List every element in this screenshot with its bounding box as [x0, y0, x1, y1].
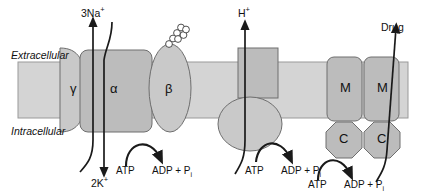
membrane-transport-diagram	[0, 0, 430, 194]
potassium-label: 2K+	[91, 176, 108, 188]
potassium-charge: +	[104, 175, 108, 184]
extracellular-label: Extracellular	[11, 50, 69, 61]
abc-drug-transporter-complex	[318, 28, 400, 182]
atp-label-1: ATP	[116, 166, 135, 176]
alpha-subunit-label: α	[110, 82, 118, 95]
atp-label-2: ATP	[245, 166, 264, 176]
adp-label-1-text: ADP + P	[152, 165, 190, 176]
atp-hydrolysis-arrow-1	[126, 144, 160, 166]
na-k-atpase-complex	[60, 22, 191, 172]
potassium-label-text: 2K	[91, 177, 104, 189]
gamma-subunit-label: γ	[70, 82, 77, 95]
catalytic-domain-1-label: C	[339, 132, 348, 145]
adp-label-3-text: ADP + P	[344, 179, 382, 190]
sodium-label-text: 3Na	[81, 7, 100, 19]
proton-charge: +	[246, 5, 250, 14]
proton-label-text: H	[238, 7, 246, 19]
membrane-domain-2-label: M	[377, 81, 388, 94]
adp-label-2-sub: i	[319, 171, 321, 178]
adp-label-2: ADP + Pi	[281, 166, 321, 178]
adp-label-3: ADP + Pi	[344, 180, 384, 192]
atp-hydrolysis-arrow-3	[318, 160, 350, 180]
adp-label-2-text: ADP + P	[281, 165, 319, 176]
catalytic-domain-2-label: C	[377, 132, 386, 145]
intracellular-label: Intracellular	[11, 126, 65, 137]
membrane-domain-1-label: M	[340, 81, 351, 94]
adp-label-1-sub: i	[190, 171, 192, 178]
adp-label-1: ADP + Pi	[152, 166, 192, 178]
sodium-label: 3Na+	[81, 6, 105, 18]
adp-label-3-sub: i	[382, 185, 384, 192]
drug-label: Drug	[381, 22, 404, 33]
proton-label: H+	[238, 6, 250, 18]
diagram-canvas: Extracellular Intracellular 3Na+ 2K+ H+ …	[0, 0, 430, 194]
atp-label-3: ATP	[308, 180, 327, 190]
oligosaccharide-chain-icon	[166, 24, 190, 47]
sodium-charge: +	[100, 5, 104, 14]
beta-subunit-label: β	[165, 82, 172, 95]
